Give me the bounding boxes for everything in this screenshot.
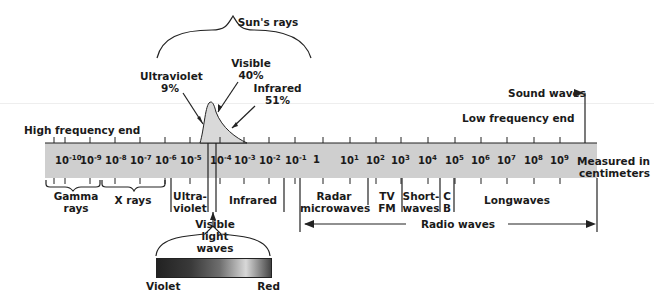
diagram-lines (0, 0, 654, 304)
